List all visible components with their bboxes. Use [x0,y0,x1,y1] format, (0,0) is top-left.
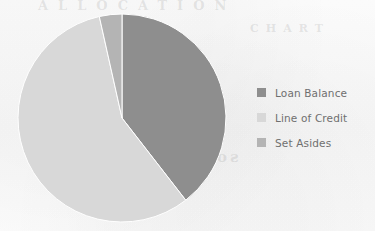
legend-swatch-icon-set-asides [257,138,266,147]
bleed-through-text-right: CHART [250,22,330,35]
legend-label-set-asides: Set Asides [275,137,331,149]
chart-legend: Loan Balance Line of Credit Set Asides [257,80,369,155]
legend-item-set-asides[interactable]: Set Asides [257,130,369,155]
legend-label-loan-balance: Loan Balance [275,87,347,99]
pie-chart-svg [17,13,227,223]
pie-slice-group [18,14,226,222]
legend-label-line-of-credit: Line of Credit [275,112,347,124]
chart-screenshot: ALLOCATION sources of funds CHART Loan B… [0,0,375,231]
legend-swatch-icon-line-of-credit [257,113,266,122]
bleed-through-text-top: ALLOCATION [38,0,236,13]
legend-item-loan-balance[interactable]: Loan Balance [257,80,369,105]
legend-item-line-of-credit[interactable]: Line of Credit [257,105,369,130]
legend-swatch-icon-loan-balance [257,88,266,97]
pie-chart [17,13,227,223]
